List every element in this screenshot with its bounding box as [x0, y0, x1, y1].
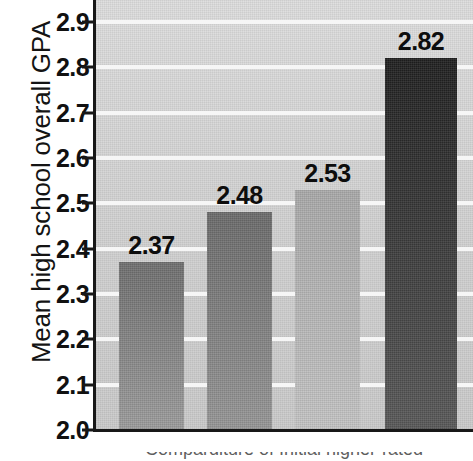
bar[interactable]	[207, 212, 272, 430]
y-axis-tick-mark	[82, 338, 93, 341]
bar[interactable]	[119, 262, 184, 430]
y-axis-line	[93, 0, 96, 432]
bar-fill	[119, 262, 184, 430]
bar-fill	[207, 212, 272, 430]
bar-fill	[295, 190, 360, 430]
x-axis-label-text: Comparditure of Initial higher-rated	[95, 452, 473, 460]
bar-value-label: 2.48	[207, 181, 272, 210]
y-axis-tick-label: 2.0	[33, 416, 89, 445]
y-axis-tick-mark	[82, 247, 93, 250]
bar-fill	[385, 58, 457, 430]
bar[interactable]	[295, 190, 360, 430]
bar-value-label: 2.82	[385, 27, 457, 56]
plot-area	[95, 0, 473, 430]
y-axis-tick-mark	[82, 111, 93, 114]
y-axis-title: Mean high school overall GPA	[24, 0, 58, 387]
bar-value-label: 2.37	[119, 231, 184, 260]
bar-value-label: 2.53	[295, 159, 360, 188]
bar[interactable]	[385, 58, 457, 430]
x-axis-label-clipped: Comparditure of Initial higher-rated	[95, 452, 473, 461]
y-axis-tick-mark	[82, 21, 93, 24]
y-axis-tick-mark	[82, 202, 93, 205]
x-axis-line	[93, 429, 473, 432]
chart-screenshot: 2.02.12.22.32.42.52.62.72.82.9 Mean high…	[0, 0, 473, 461]
y-axis-tick-mark	[82, 429, 93, 432]
y-axis-tick-mark	[82, 293, 93, 296]
y-axis-tick-mark	[82, 383, 93, 386]
y-axis-tick-mark	[82, 157, 93, 160]
y-axis-tick-mark	[82, 66, 93, 69]
gridline	[95, 20, 473, 24]
